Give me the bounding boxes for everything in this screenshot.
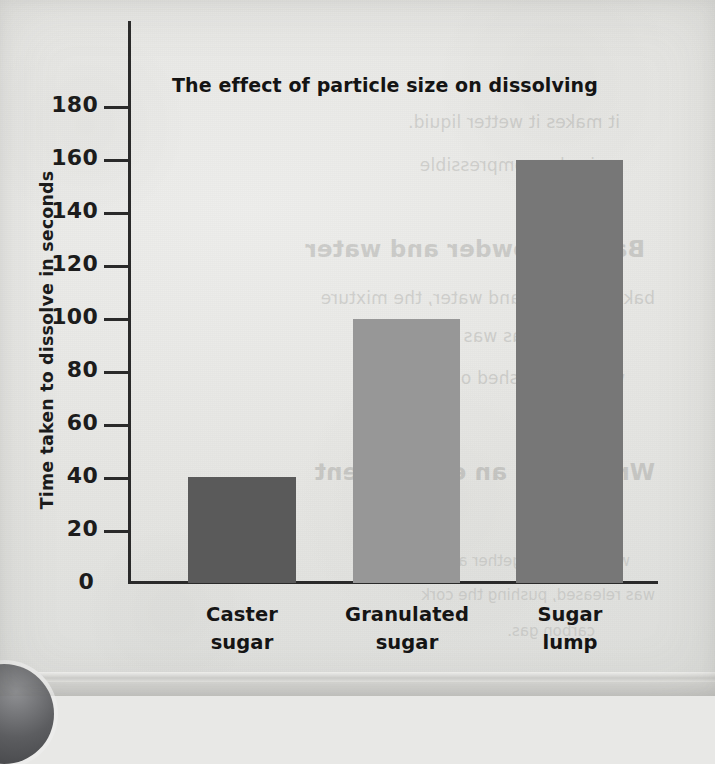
x-axis-category-label-line: sugar bbox=[332, 629, 482, 657]
x-axis-category-label-line: lump bbox=[495, 629, 645, 657]
y-axis-tick-label: 100 bbox=[26, 304, 98, 329]
y-axis-tick-label: 20 bbox=[26, 516, 98, 541]
y-axis-tick-label: 120 bbox=[26, 251, 98, 276]
x-axis-category-label: Castersugar bbox=[167, 601, 317, 656]
page-bottom-band-2 bbox=[0, 682, 715, 696]
y-axis-tick-label: 140 bbox=[26, 198, 98, 223]
y-axis-tick bbox=[104, 159, 130, 162]
y-axis-tick-label: 80 bbox=[26, 357, 98, 382]
y-axis-tick bbox=[104, 477, 130, 480]
x-axis-category-label: Sugarlump bbox=[495, 601, 645, 656]
x-axis-category-label-line: Granulated bbox=[332, 601, 482, 629]
y-axis-tick bbox=[104, 318, 130, 321]
chart-title: The effect of particle size on dissolvin… bbox=[150, 74, 620, 96]
x-axis-category-label-line: Caster bbox=[167, 601, 317, 629]
y-axis-tick-label: 160 bbox=[26, 145, 98, 170]
bar bbox=[353, 319, 460, 583]
y-axis-tick-label: 60 bbox=[26, 410, 98, 435]
y-axis-tick bbox=[104, 212, 130, 215]
x-axis-category-label-line: Sugar bbox=[495, 601, 645, 629]
y-axis-tick bbox=[104, 371, 130, 374]
y-axis-tick bbox=[104, 265, 130, 268]
y-axis-tick bbox=[104, 106, 130, 109]
y-axis-tick-label: 40 bbox=[26, 463, 98, 488]
page-bottom-band bbox=[0, 672, 715, 682]
bar bbox=[516, 160, 623, 583]
y-axis-tick-label: 0 bbox=[22, 569, 94, 594]
bar bbox=[188, 477, 296, 583]
x-axis-category-label-line: sugar bbox=[167, 629, 317, 657]
y-axis-tick bbox=[104, 530, 130, 533]
x-axis-category-label: Granulatedsugar bbox=[332, 601, 482, 656]
y-axis-tick bbox=[104, 424, 130, 427]
y-axis-tick-label: 180 bbox=[26, 92, 98, 117]
